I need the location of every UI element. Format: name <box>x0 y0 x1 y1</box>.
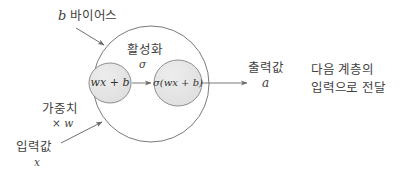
next-layer-note-line2: 입력으로 전달 <box>311 79 386 97</box>
bias-symbol-label: b <box>58 9 66 23</box>
bias-pointer-arrow <box>76 28 104 45</box>
weight-symbol-label: × w <box>52 118 73 130</box>
weight-text-label: 가중치 <box>42 102 77 116</box>
activation-output-node-label: σ(wx + b) <box>150 77 206 88</box>
diagram-canvas: b 바이어스 활성화 σ wx + b σ(wx + b) 출력값 a 가중치 … <box>0 0 409 176</box>
next-layer-note-line1: 다음 계층의 <box>311 61 374 79</box>
activation-text-label: 활성화 <box>127 43 162 57</box>
bias-text-label: 바이어스 <box>70 9 117 23</box>
output-text-label: 출력값 <box>248 61 283 75</box>
activation-symbol-label: σ <box>139 59 146 71</box>
output-symbol-label: a <box>262 77 269 90</box>
input-text-label: 입력값 <box>16 140 51 154</box>
input-symbol-label: x <box>34 157 40 169</box>
linear-combination-node-label: wx + b <box>88 76 132 89</box>
